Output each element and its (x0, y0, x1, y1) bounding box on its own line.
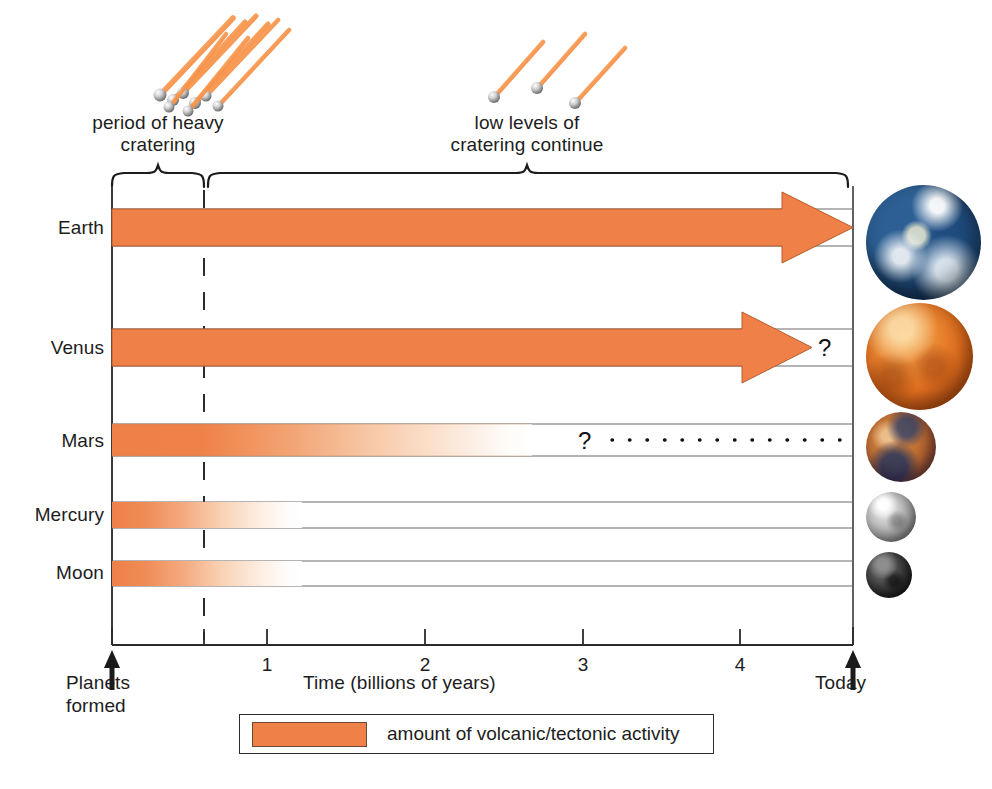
low-cratering-caption: low levels of cratering continue (427, 112, 627, 157)
activity-bar-mercury (112, 502, 302, 528)
x-axis-title: Time (billions of years) (303, 672, 496, 694)
row-label-venus: Venus (0, 337, 104, 359)
activity-bar-earth (112, 192, 853, 263)
mars-question-mark: ? (578, 427, 591, 455)
legend: amount of volcanic/tectonic activity (239, 714, 714, 754)
venus-question-mark: ? (818, 334, 831, 362)
row-label-mars: Mars (0, 430, 104, 452)
heavy-cratering-caption-line1: period of heavy (58, 112, 258, 134)
earth-image (866, 185, 981, 300)
brace-low-cratering (208, 165, 848, 187)
x-tick-label-1: 1 (237, 654, 297, 676)
planets-formed-label-line2: formed (66, 695, 130, 718)
row-baselines (112, 209, 853, 586)
activity-bar-venus (112, 312, 812, 383)
legend-swatch (252, 722, 367, 747)
activity-bar-mars (112, 424, 532, 456)
x-tick-label-3: 3 (553, 654, 613, 676)
heavy-cratering-caption-line2: cratering (58, 134, 258, 156)
mercury-image (866, 492, 916, 542)
legend-label: amount of volcanic/tectonic activity (387, 723, 680, 745)
row-label-earth: Earth (0, 217, 104, 239)
x-axis-ticks (112, 627, 853, 645)
low-cratering-meteors-icon (488, 34, 625, 109)
low-cratering-caption-line2: cratering continue (427, 134, 627, 156)
figure-canvas: period of heavy cratering low levels of … (0, 0, 992, 789)
activity-bar-moon (112, 561, 302, 586)
row-label-moon: Moon (0, 562, 104, 584)
moon-image (866, 552, 912, 598)
brace-heavy-cratering (112, 165, 204, 187)
today-label: Today (815, 672, 866, 694)
x-tick-label-4: 4 (710, 654, 770, 676)
venus-image (866, 303, 973, 410)
planets-formed-label: Planets formed (66, 672, 130, 718)
row-label-mercury: Mercury (0, 504, 104, 526)
low-cratering-caption-line1: low levels of (427, 112, 627, 134)
mars-image (866, 412, 936, 482)
heavy-cratering-meteors-icon (154, 16, 290, 117)
heavy-cratering-caption: period of heavy cratering (58, 112, 258, 157)
planets-formed-label-line1: Planets (66, 672, 130, 695)
